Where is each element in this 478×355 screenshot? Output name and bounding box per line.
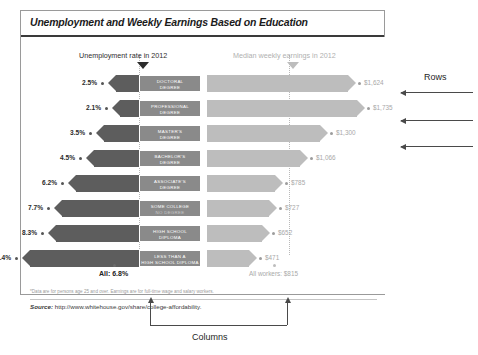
arrow-left-icon [86, 150, 94, 166]
earnings-value: $652 [278, 229, 292, 236]
category-label: MASTER'S DEGREE [139, 125, 201, 142]
annotation-columns-stub-right [287, 316, 288, 325]
arrow-right-icon [348, 75, 356, 91]
annotation-arrow-row-2 [401, 120, 473, 121]
table-row: 6.2% ASSOCIATE'S DEGREE $785 [21, 173, 386, 194]
row-marker-dot [47, 207, 50, 210]
unemployment-bar [120, 100, 139, 117]
chart-title: Unemployment and Weekly Earnings Based o… [30, 16, 308, 28]
table-row: 7.7% SOME COLLEGE NO DEGREE $727 [21, 198, 386, 219]
unemployment-bar [104, 125, 139, 142]
earnings-value: $785 [291, 179, 305, 186]
source-label: Source: [30, 303, 53, 310]
table-row: 8.3% HIGH SCHOOL DIPLOMA $652 [21, 223, 386, 244]
arrow-right-icon [269, 200, 277, 216]
category-label-line2: DEGREE [140, 135, 200, 141]
earnings-value: $471 [265, 254, 279, 261]
table-row: 3.5% MASTER'S DEGREE $1,300 [21, 123, 386, 144]
row-marker-dot [367, 107, 370, 110]
earnings-value: $1,735 [373, 104, 393, 111]
category-label-line2: DEGREE [140, 110, 200, 116]
category-label-line2: NO DEGREE [140, 210, 200, 216]
arrow-right-icon [249, 250, 257, 266]
triangle-down-icon-unemployment [137, 62, 149, 69]
annotation-arrow-column-2 [287, 303, 288, 317]
unemployment-value: 8.3% [0, 229, 37, 236]
arrow-right-icon [262, 225, 270, 241]
column-header-earnings: Median weekly earnings in 2012 [233, 51, 336, 60]
arrow-left-icon [96, 125, 104, 141]
annotation-arrow-row-1 [401, 92, 473, 93]
unemployment-value: 4.5% [35, 154, 75, 161]
all-unemployment-dot [113, 264, 116, 267]
row-marker-dot [358, 82, 361, 85]
row-marker-dot [279, 207, 282, 210]
table-row: 12.4% LESS THAN A HIGH SCHOOL DIPLOMA $4… [21, 248, 386, 269]
annotation-arrow-column-1 [150, 303, 151, 317]
row-marker-dot [61, 182, 64, 185]
earnings-bar [207, 175, 275, 192]
annotation-columns-bracket [150, 325, 287, 326]
earnings-bar [207, 150, 300, 167]
category-label-line2: DEGREE [140, 85, 200, 91]
category-label: DOCTORAL DEGREE [139, 75, 201, 92]
chart-plot-area: Unemployment rate in 2012 Median weekly … [21, 37, 386, 294]
column-header-unemployment: Unemployment rate in 2012 [79, 51, 167, 60]
arrow-left-icon [54, 200, 62, 216]
arrow-left-icon [112, 100, 120, 116]
source-divider [30, 299, 377, 300]
row-marker-dot [259, 257, 262, 260]
unemployment-value: 6.2% [17, 179, 57, 186]
category-label: ASSOCIATE'S DEGREE [139, 175, 201, 192]
table-row: 2.5% DOCTORAL DEGREE $1,624 [21, 73, 386, 94]
arrow-left-icon [68, 175, 76, 191]
row-marker-dot [310, 157, 313, 160]
title-band: Unemployment and Weekly Earnings Based o… [21, 11, 384, 37]
arrow-right-icon [320, 125, 328, 141]
row-marker-dot [89, 132, 92, 135]
unemployment-bar [76, 175, 139, 192]
row-marker-dot [285, 182, 288, 185]
unemployment-bar [62, 200, 139, 217]
all-unemployment-label: All: 6.8% [99, 270, 128, 277]
unemployment-value: 2.1% [61, 104, 101, 111]
category-label: SOME COLLEGE NO DEGREE [139, 200, 201, 217]
unemployment-value: 12.4% [0, 254, 11, 261]
unemployment-bar [94, 150, 139, 167]
unemployment-bar [30, 250, 139, 267]
category-label: PROFESSIONAL DEGREE [139, 100, 201, 117]
earnings-value: $1,624 [364, 79, 384, 86]
category-label-line2: DEGREE [140, 185, 200, 191]
arrow-left-icon [22, 250, 30, 266]
arrow-right-icon [357, 100, 365, 116]
earnings-bar [207, 75, 348, 92]
earnings-value: $1,066 [316, 154, 336, 161]
earnings-bar [207, 100, 357, 117]
arrow-left-icon [400, 144, 406, 150]
all-earnings-dot [273, 264, 276, 267]
arrow-left-icon [400, 118, 406, 124]
category-label: HIGH SCHOOL DIPLOMA [139, 225, 201, 242]
source-line: Source: http://www.whitehouse.gov/share/… [30, 303, 201, 310]
category-label: BACHELOR'S DEGREE [139, 150, 201, 167]
unemployment-value: 7.7% [3, 204, 43, 211]
earnings-bar [207, 200, 269, 217]
arrow-up-icon [148, 297, 154, 303]
row-marker-dot [41, 232, 44, 235]
footnote: *Data are for persons age 25 and over. E… [30, 289, 214, 294]
arrow-right-icon [275, 175, 283, 191]
earnings-bar [207, 225, 262, 242]
arrow-left-icon [48, 225, 56, 241]
source-url[interactable]: http://www.whitehouse.gov/share/college-… [55, 303, 202, 310]
row-marker-dot [272, 232, 275, 235]
annotation-columns-label: Columns [192, 332, 228, 342]
row-marker-dot [79, 157, 82, 160]
earnings-value: $727 [285, 204, 299, 211]
arrow-left-icon [108, 75, 116, 91]
unemployment-value: 3.5% [45, 129, 85, 136]
annotation-columns-stub-left [150, 316, 151, 325]
triangle-down-icon-earnings [287, 62, 299, 69]
all-earnings-label: All workers: $815 [249, 270, 298, 277]
unemployment-bar [116, 75, 139, 92]
row-marker-dot [15, 257, 18, 260]
